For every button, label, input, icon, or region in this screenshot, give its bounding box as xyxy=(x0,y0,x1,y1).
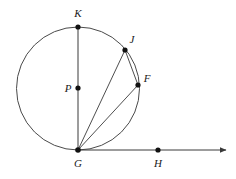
point-j-dot xyxy=(122,47,127,52)
point-label-h: H xyxy=(153,157,163,169)
point-label-f: F xyxy=(143,72,151,84)
point-k-dot xyxy=(75,24,80,29)
point-label-k: K xyxy=(73,7,82,19)
point-label-p: P xyxy=(64,82,72,94)
point-f-dot xyxy=(135,82,140,87)
point-p-dot xyxy=(75,85,80,90)
point-label-j: J xyxy=(130,33,136,45)
geometry-canvas: K J F P G H xyxy=(0,0,236,179)
geometry-diagram: K J F P G H xyxy=(0,0,236,179)
point-g-dot xyxy=(75,147,81,153)
point-label-g: G xyxy=(74,157,82,169)
segment-gf-chord xyxy=(78,85,138,150)
point-h-dot xyxy=(155,147,160,152)
